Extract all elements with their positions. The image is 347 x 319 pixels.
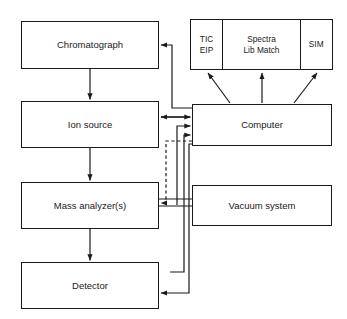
- block-vacuum-system: Vacuum system: [192, 185, 332, 226]
- block-detector: Detector: [21, 262, 159, 309]
- arrow-detector-to-computer: [170, 135, 191, 272]
- output-cell-tic-eip: TIC EIP: [191, 20, 223, 69]
- block-vacuum-system-label: Vacuum system: [229, 200, 296, 212]
- block-computer-outputs: TIC EIP Spectra Lib Match SIM: [190, 19, 333, 70]
- output-cell-spectra-lib-match-label: Spectra Lib Match: [244, 34, 280, 56]
- arrow-computer-to-output-sim: [294, 73, 317, 103]
- block-chromatograph-label: Chromatograph: [57, 39, 123, 51]
- block-computer-label: Computer: [241, 119, 283, 131]
- block-detector-label: Detector: [72, 280, 108, 292]
- block-mass-analyzer-label: Mass analyzer(s): [54, 200, 126, 212]
- output-cell-sim: SIM: [301, 20, 331, 69]
- output-cell-spectra-lib-match: Spectra Lib Match: [223, 20, 301, 69]
- diagram-canvas: Chromatograph Ion source Mass analyzer(s…: [0, 0, 347, 319]
- block-mass-analyzer: Mass analyzer(s): [21, 182, 159, 229]
- arrow-computer-to-output-tic: [208, 73, 230, 103]
- output-cell-sim-label: SIM: [309, 39, 324, 50]
- output-cell-tic-eip-label: TIC EIP: [200, 34, 213, 56]
- block-computer: Computer: [192, 104, 332, 146]
- block-ion-source: Ion source: [21, 101, 159, 148]
- block-ion-source-label: Ion source: [68, 119, 112, 131]
- block-chromatograph: Chromatograph: [21, 21, 159, 69]
- arrow-computer-to-chromatograph: [161, 45, 192, 108]
